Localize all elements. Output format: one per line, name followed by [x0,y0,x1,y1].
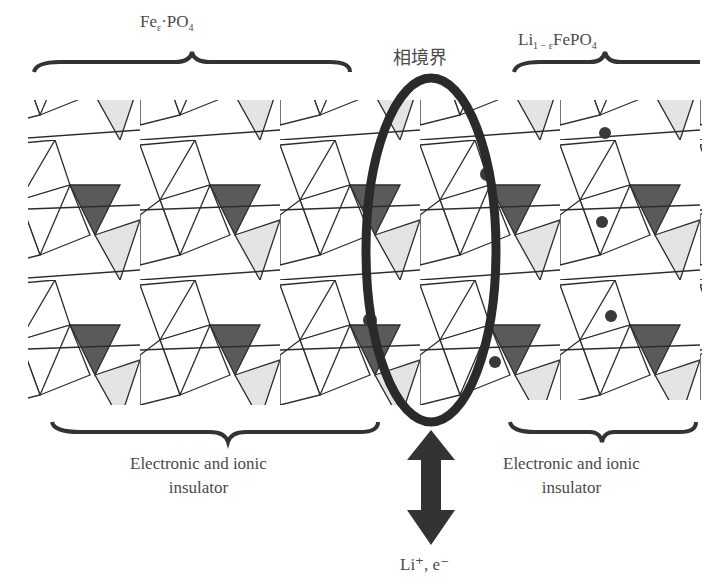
title-fe-po4: Feε·PO4 [140,12,194,33]
bottom-right-brace [510,422,696,442]
bottom-left-brace [52,422,378,442]
phase-boundary-label: 相境界 [393,43,447,69]
insulator-label-right: Electronic and ionicinsulator [503,452,640,500]
lattice-left [28,100,376,405]
title-li-fepo4: Li1 − εFePO4 [518,30,597,51]
left-brace [34,52,350,72]
right-brace [514,52,700,72]
li-ion [599,127,611,139]
double-arrow-icon [407,430,455,545]
li-ion [605,310,617,322]
li-ion [596,216,608,228]
li-ion [489,356,501,368]
lattice-right [512,100,702,400]
insulator-label-left: Electronic and ionicinsulator [130,452,267,500]
arrow-label: Li⁺, e⁻ [400,554,449,575]
